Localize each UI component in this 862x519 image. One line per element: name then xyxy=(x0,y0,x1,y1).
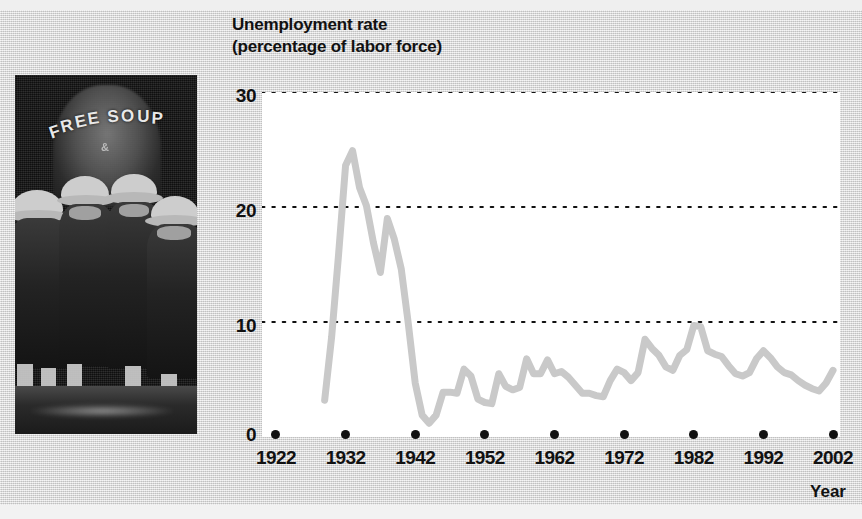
x-tick-dot-1942 xyxy=(411,430,420,439)
x-tick-dot-1952 xyxy=(480,430,489,439)
y-tick-20: 20 xyxy=(212,200,256,222)
x-tick-dot-2002 xyxy=(829,430,838,439)
x-tick-label-2002: 2002 xyxy=(797,447,862,469)
x-tick-dot-1922 xyxy=(271,430,280,439)
x-tick-label-1942: 1942 xyxy=(379,447,451,469)
coat xyxy=(147,224,197,378)
x-tick-dot-1992 xyxy=(759,430,768,439)
x-tick-label-1922: 1922 xyxy=(240,447,312,469)
y-tick-30: 30 xyxy=(212,85,256,107)
x-axis-label: Year xyxy=(810,482,846,502)
chart-canvas xyxy=(262,92,840,437)
x-tick-label-1992: 1992 xyxy=(727,447,799,469)
bottom-band xyxy=(0,505,862,519)
x-tick-dot-1962 xyxy=(550,430,559,439)
x-tick-label-1962: 1962 xyxy=(518,447,590,469)
figure-root: FREE SOUP & xyxy=(0,0,862,519)
x-tick-label-1932: 1932 xyxy=(310,447,382,469)
x-tick-dot-1932 xyxy=(341,430,350,439)
x-tick-dot-1972 xyxy=(620,430,629,439)
y-tick-10: 10 xyxy=(212,315,256,337)
gridlines xyxy=(262,92,840,322)
photograph: FREE SOUP & xyxy=(15,75,197,434)
photograph-image: FREE SOUP & xyxy=(15,75,197,434)
collar xyxy=(69,206,101,220)
unemployment-line xyxy=(325,151,833,424)
chart-title-line1: Unemployment rate xyxy=(232,14,662,36)
plot-area xyxy=(262,92,840,437)
x-tick-label-1982: 1982 xyxy=(658,447,730,469)
photo-floor-sheen xyxy=(27,404,177,418)
top-band xyxy=(0,0,862,10)
x-tick-label-1952: 1952 xyxy=(449,447,521,469)
x-tick-dot-1982 xyxy=(689,430,698,439)
y-tick-0: 0 xyxy=(212,424,256,446)
x-tick-label-1972: 1972 xyxy=(588,447,660,469)
chart-title: Unemployment rate (percentage of labor f… xyxy=(232,14,662,59)
collar xyxy=(157,226,191,240)
crowd-of-men xyxy=(15,75,197,434)
chart-title-line2: (percentage of labor force) xyxy=(232,36,662,58)
collar xyxy=(119,204,149,217)
